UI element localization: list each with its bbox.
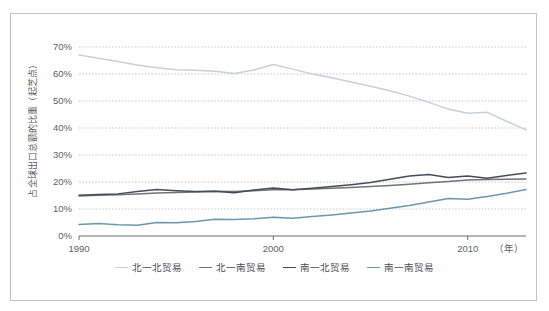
legend-line-swatch-icon (199, 267, 212, 268)
y-tick-label: 20% (53, 176, 73, 187)
legend-item[interactable]: 南一北贸易 (283, 260, 350, 274)
legend-item-label: 北一南贸易 (216, 260, 266, 274)
line-chart-svg: 0%10%20%30%40%50%60%70%199020002010（年） (11, 14, 538, 264)
x-tick-label: 2010 (457, 243, 478, 254)
chart-legend: 北一北贸易北一南贸易南一北贸易南一南贸易 (11, 260, 538, 274)
series-line-南一南贸易 (79, 190, 526, 226)
legend-item-label: 南一北贸易 (300, 260, 350, 274)
y-tick-label: 70% (53, 41, 73, 52)
chart-figure-frame: 占全球出口总额的比重（起芝点） 0%10%20%30%40%50%60%70%1… (10, 13, 537, 301)
y-tick-label: 40% (53, 122, 73, 133)
y-tick-label: 50% (53, 95, 73, 106)
series-line-北一北贸易 (79, 55, 526, 130)
y-tick-label: 30% (53, 149, 73, 160)
x-tick-label: 2000 (263, 243, 284, 254)
x-axis-unit-label: （年） (494, 243, 524, 254)
y-tick-label: 0% (58, 230, 72, 241)
legend-item[interactable]: 北一南贸易 (199, 260, 266, 274)
legend-item[interactable]: 北一北贸易 (115, 260, 182, 274)
legend-line-swatch-icon (115, 267, 128, 268)
legend-line-swatch-icon (283, 267, 296, 268)
x-tick-label: 1990 (68, 243, 89, 254)
legend-item-label: 北一北贸易 (132, 260, 182, 274)
y-tick-label: 60% (53, 68, 73, 79)
legend-item-label: 南一南贸易 (384, 260, 434, 274)
plot-area-wrapper: 占全球出口总额的比重（起芝点） 0%10%20%30%40%50%60%70%1… (11, 14, 538, 302)
legend-item[interactable]: 南一南贸易 (367, 260, 434, 274)
series-line-南一北贸易 (79, 173, 526, 195)
y-tick-label: 10% (53, 203, 73, 214)
legend-line-swatch-icon (367, 267, 380, 268)
